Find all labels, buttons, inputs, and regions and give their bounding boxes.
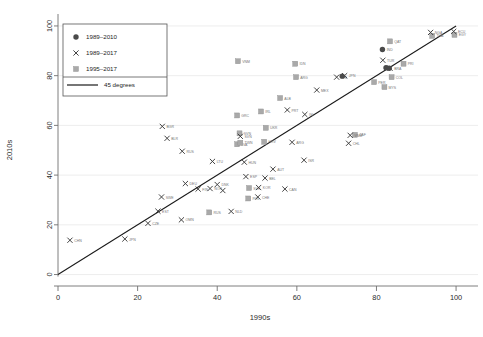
- data-point-label: SVN: [245, 135, 253, 139]
- data-point: CAN: [282, 186, 297, 191]
- data-point-label: ISL: [309, 113, 314, 117]
- y-tick-label: 20: [45, 221, 54, 229]
- data-point-label: JPN: [129, 238, 136, 242]
- data-point-label: RUS: [186, 150, 194, 154]
- data-point-label: MEX: [321, 89, 329, 93]
- data-point: UKR: [263, 125, 278, 130]
- data-point-label: NGA: [435, 31, 443, 35]
- data-point-label: RUS: [213, 211, 221, 215]
- data-point: HRV: [262, 139, 277, 144]
- y-axis-ticks: 020406080100: [45, 20, 58, 277]
- data-point: CHN: [67, 238, 82, 243]
- data-point-label: THA: [436, 34, 444, 38]
- data-point-label: NLD: [235, 210, 242, 214]
- y-tick-label: 100: [45, 20, 54, 32]
- data-point: JPN: [122, 236, 136, 241]
- data-point-label: ECU: [458, 30, 466, 34]
- data-point: MEX: [314, 87, 329, 92]
- data-point: IDN: [293, 61, 306, 66]
- data-point-label: UKR: [270, 126, 278, 130]
- data-point-label: PER: [378, 81, 386, 85]
- data-point-label: GRC: [241, 114, 249, 118]
- data-point: ALB: [278, 96, 292, 101]
- x-tick-label: 80: [372, 293, 380, 302]
- x-axis-title: 1990s: [250, 313, 271, 322]
- data-point-label: COL: [396, 76, 403, 80]
- data-point-label: TUR: [387, 59, 395, 63]
- data-point-label: EST: [162, 210, 170, 214]
- data-point: MYS: [382, 85, 397, 90]
- data-point: ISL: [302, 112, 314, 117]
- data-point-label: CAN: [289, 188, 297, 192]
- data-point-label: QAT: [394, 40, 402, 44]
- data-point: IRL: [259, 109, 271, 114]
- data-point-label: BEL: [269, 177, 276, 181]
- data-point-label: CHL: [353, 142, 360, 146]
- data-point: RUS: [180, 149, 195, 154]
- data-point-label: LTU: [217, 160, 224, 164]
- data-point: LTU: [210, 159, 224, 164]
- data-point: TWN: [238, 140, 253, 145]
- legend: 1989–20101989–20171995–201745 degrees: [63, 24, 167, 96]
- data-points-square-series: RUSPOLSVKLVASVNTWNHRVUKRIRLGRCALBARGVNMI…: [207, 32, 467, 215]
- data-point-label: HUN: [249, 161, 257, 165]
- data-point-label: CZE: [152, 222, 160, 226]
- data-point-label: ARG: [300, 76, 308, 80]
- data-point: PER: [372, 80, 386, 85]
- legend-item-label: 1989–2010: [86, 33, 118, 40]
- data-point: SWE: [159, 194, 174, 199]
- data-point: BLR: [164, 136, 178, 141]
- data-point-label: BGR: [166, 125, 174, 129]
- data-point: BEL: [262, 175, 275, 180]
- data-point: [340, 73, 345, 78]
- y-tick-label: 80: [45, 72, 54, 80]
- data-point: AUT: [270, 167, 285, 172]
- data-point-label: OMN: [186, 218, 195, 222]
- legend-item-label: 45 degrees: [104, 81, 135, 88]
- data-point-label: VNM: [242, 60, 250, 64]
- scatter-plot-figure: 020406080100 020406080100 2010s 1990s RU…: [0, 0, 483, 337]
- data-point: TUR: [380, 58, 394, 63]
- data-point-label: AUT: [277, 168, 285, 172]
- data-point-label: TWN: [245, 141, 253, 145]
- data-point: [387, 66, 392, 71]
- data-point-label: SWE: [166, 196, 175, 200]
- data-point-label: ISR: [308, 159, 314, 163]
- legend-item-label: 1989–2017: [86, 49, 118, 56]
- data-point: OMN: [179, 217, 194, 222]
- data-point-label: KOR: [263, 186, 271, 190]
- data-point: QAT: [387, 39, 401, 44]
- data-point-label: IDN: [299, 62, 306, 66]
- data-point: COL: [389, 75, 403, 80]
- data-point: HUN: [242, 160, 257, 165]
- x-tick-label: 60: [293, 293, 301, 302]
- data-point-label: JPN: [349, 74, 356, 78]
- plot-canvas: 020406080100 020406080100 2010s 1990s RU…: [0, 0, 483, 337]
- data-point: DEU: [183, 181, 198, 186]
- y-tick-label: 0: [45, 272, 54, 276]
- x-tick-label: 20: [133, 293, 141, 302]
- data-point-label: CHE: [262, 196, 270, 200]
- data-point-label: CHN: [74, 239, 82, 243]
- data-point-label: BLR: [171, 137, 178, 141]
- data-point: BGR: [160, 124, 175, 129]
- legend-item-label: 1995–2017: [86, 65, 118, 72]
- data-point: ISR: [301, 158, 314, 163]
- x-tick-label: 0: [56, 293, 60, 302]
- y-tick-label: 60: [45, 121, 54, 129]
- data-point-label: EGY: [459, 33, 467, 37]
- data-point-label: DEU: [190, 182, 198, 186]
- data-point-label: ALB: [284, 97, 291, 101]
- data-point-label: ESP: [250, 175, 258, 179]
- data-point-label: PRT: [291, 109, 299, 113]
- data-point: IND: [380, 47, 393, 52]
- data-point: RUS: [207, 210, 222, 215]
- data-point-label: IND: [387, 48, 394, 52]
- x-axis-ticks: 020406080100: [56, 286, 462, 302]
- data-point: PRT: [285, 107, 300, 112]
- y-axis-title: 2010s: [5, 139, 14, 160]
- data-point: CHL: [346, 141, 360, 146]
- data-point-label: MYS: [389, 86, 397, 90]
- data-point-label: BRA: [394, 67, 402, 71]
- y-tick-label: 40: [45, 171, 54, 179]
